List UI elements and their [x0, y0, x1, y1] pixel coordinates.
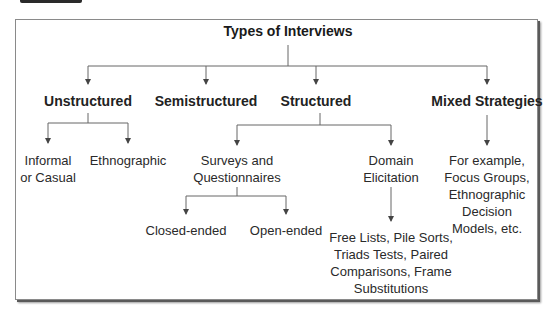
node-domain-elicitation: Domain Elicitation	[351, 152, 431, 186]
node-domain-tech-line2: Triads Tests, Paired	[326, 246, 456, 263]
node-surveys-questionnaires: Surveys and Questionnaires	[187, 152, 287, 186]
diagram-title: Types of Interviews	[218, 23, 358, 40]
node-closed-ended: Closed-ended	[141, 222, 231, 239]
node-mixed-line3: Ethnographic	[437, 186, 537, 203]
category-semistructured: Semistructured	[151, 93, 261, 110]
node-domain-tech-line3: Comparisons, Frame	[326, 263, 456, 280]
node-domain-tech-line1: Free Lists, Pile Sorts,	[326, 229, 456, 246]
category-mixed-strategies: Mixed Strategies	[427, 93, 547, 110]
node-open-ended: Open-ended	[246, 222, 326, 239]
node-informal-casual: Informal or Casual	[18, 152, 78, 186]
node-domain-tech-line4: Substitutions	[326, 280, 456, 297]
node-domain-techniques: Free Lists, Pile Sorts, Triads Tests, Pa…	[326, 229, 456, 297]
node-domain-line2: Elicitation	[351, 169, 431, 186]
node-domain-line1: Domain	[351, 152, 431, 169]
node-mixed-examples: For example, Focus Groups, Ethnographic …	[437, 152, 537, 237]
node-mixed-line4: Decision	[437, 203, 537, 220]
node-ethnographic: Ethnographic	[88, 152, 168, 169]
node-informal-line2: or Casual	[18, 169, 78, 186]
node-mixed-line2: Focus Groups,	[437, 169, 537, 186]
category-unstructured: Unstructured	[38, 93, 138, 110]
node-surveys-line2: Questionnaires	[187, 169, 287, 186]
node-surveys-line1: Surveys and	[187, 152, 287, 169]
node-mixed-line1: For example,	[437, 152, 537, 169]
category-structured: Structured	[271, 93, 361, 110]
node-informal-line1: Informal	[18, 152, 78, 169]
